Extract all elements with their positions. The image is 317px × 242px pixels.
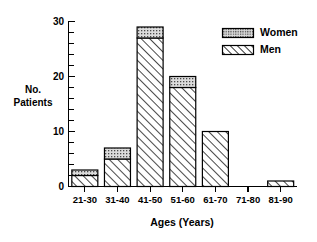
x-tick-label-81-90: 81-90: [269, 194, 293, 205]
bar-segment-women-21-30: [72, 170, 98, 176]
y-axis-title: No. Patients: [14, 84, 53, 108]
bar-segment-women-31-40: [104, 148, 130, 159]
bar-segment-men-81-90: [268, 181, 294, 187]
x-tick-label-71-80: 71-80: [236, 194, 260, 205]
x-tick-label-61-70: 61-70: [203, 194, 227, 205]
legend-label-men: Men: [260, 43, 281, 55]
x-axis-ticks: [85, 187, 281, 192]
bar-segment-men-41-50: [137, 38, 163, 187]
bar-segment-men-31-40: [104, 159, 130, 187]
bar-segment-men-61-70: [202, 132, 228, 187]
y-tick-label-10: 10: [53, 126, 65, 137]
bar-segment-women-41-50: [137, 27, 163, 38]
y-axis-ticks: [69, 22, 75, 187]
x-tick-label-51-60: 51-60: [171, 194, 195, 205]
legend-label-women: Women: [260, 26, 298, 38]
legend-swatch-women: [223, 29, 254, 38]
legend-swatch-men: [223, 46, 254, 55]
y-axis-tick-labels: 0 10 20 30: [53, 16, 65, 192]
legend: Women Men: [223, 26, 298, 55]
y-axis-title-line-2: Patients: [14, 97, 53, 108]
x-axis-title: Ages (Years): [150, 216, 214, 228]
y-tick-label-0: 0: [58, 181, 64, 192]
x-tick-label-41-50: 41-50: [138, 194, 162, 205]
chart-canvas: 0 10 20 30 No. Patients 21-3031-4041-505…: [0, 0, 317, 242]
bar-chart-figure: 0 10 20 30 No. Patients 21-3031-4041-505…: [0, 0, 317, 242]
bar-segment-men-21-30: [72, 176, 98, 187]
bar-segment-women-51-60: [170, 77, 196, 88]
y-axis-title-line-1: No.: [25, 84, 41, 95]
y-tick-label-20: 20: [53, 71, 65, 82]
bar-segment-men-51-60: [170, 88, 196, 187]
y-tick-label-30: 30: [53, 16, 65, 27]
x-tick-label-21-30: 21-30: [73, 194, 97, 205]
x-tick-label-31-40: 31-40: [105, 194, 129, 205]
x-axis-tick-labels: 21-3031-4041-5051-6061-7071-8081-90: [73, 194, 293, 205]
